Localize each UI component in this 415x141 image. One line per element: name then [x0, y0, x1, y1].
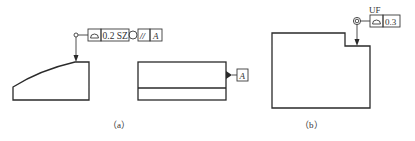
tolerance-frame-b: 0.3 — [370, 15, 400, 27]
arrowhead-icon — [355, 39, 360, 46]
profile-surface-icon — [373, 20, 381, 24]
stepped-part-outline — [272, 33, 370, 108]
all-around-modifier-icon — [353, 17, 360, 24]
leader-a — [74, 33, 89, 62]
circle-modifier-icon — [129, 31, 137, 39]
datum-ref-a: A — [152, 31, 159, 41]
datum-feature-a: A — [226, 69, 248, 81]
block-part-outline — [138, 62, 226, 100]
leader-b — [353, 17, 370, 46]
tolerance-frame-a: 0.2 SZ // A — [88, 29, 162, 41]
drawing-canvas: 0.2 SZ // A A （a） UF 0.3 （b） — [0, 0, 415, 141]
curved-part-outline — [13, 62, 89, 100]
tolerance-value-b: 0.3 — [385, 17, 397, 27]
tolerance-value-a: 0.2 SZ — [103, 31, 129, 41]
parallel-symbol: // — [139, 31, 147, 41]
profile-surface-icon — [91, 34, 99, 38]
arrowhead-icon — [74, 55, 79, 62]
datum-triangle-icon — [226, 71, 232, 79]
uf-label: UF — [369, 5, 381, 15]
caption-b: （b） — [300, 120, 323, 130]
caption-a: （a） — [108, 120, 130, 130]
datum-label-a: A — [239, 71, 246, 81]
